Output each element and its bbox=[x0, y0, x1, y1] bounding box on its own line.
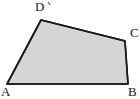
tick-above-d-mark bbox=[48, 2, 50, 5]
vertex-label-c: C bbox=[130, 26, 139, 39]
geometry-figure-canvas: D C A B bbox=[0, 0, 140, 99]
vertex-label-b: B bbox=[128, 85, 137, 98]
vertex-label-a: A bbox=[1, 85, 10, 98]
quadrilateral-svg bbox=[0, 0, 140, 99]
vertex-label-d: D bbox=[35, 0, 44, 13]
quadrilateral-shape bbox=[7, 20, 128, 84]
